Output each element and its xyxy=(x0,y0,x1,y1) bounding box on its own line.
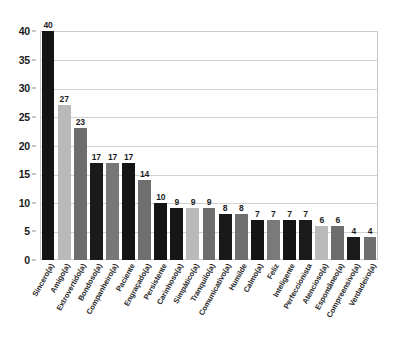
bar-value-label: 10 xyxy=(156,192,165,202)
bar-value-label: 7 xyxy=(255,209,260,219)
bar: 9 xyxy=(203,208,216,260)
bar: 8 xyxy=(235,214,248,260)
y-tick-label: 0 xyxy=(24,254,30,266)
y-tick-label: 20 xyxy=(19,140,30,152)
bar-value-label: 9 xyxy=(207,197,212,207)
y-tick-mark xyxy=(32,260,36,261)
bar: 6 xyxy=(315,226,328,260)
bar-value-label: 17 xyxy=(124,152,133,162)
y-tick-mark xyxy=(32,59,36,60)
y-tick-mark xyxy=(32,231,36,232)
y-tick-mark xyxy=(32,174,36,175)
bar: 10 xyxy=(154,203,167,260)
bar: 9 xyxy=(186,208,199,260)
bar-value-label: 7 xyxy=(287,209,292,219)
y-tick-label: 15 xyxy=(19,168,30,180)
bar-value-label: 17 xyxy=(108,152,117,162)
bar: 14 xyxy=(138,180,151,260)
bar-value-label: 14 xyxy=(140,169,149,179)
y-tick-mark xyxy=(32,88,36,89)
bar-value-label: 27 xyxy=(60,94,69,104)
y-tick-mark xyxy=(32,202,36,203)
bar: 23 xyxy=(74,128,87,260)
y-tick-label: 10 xyxy=(19,197,30,209)
bar: 7 xyxy=(283,220,296,260)
bar: 40 xyxy=(42,31,55,260)
y-tick-label: 30 xyxy=(19,82,30,94)
bar: 17 xyxy=(106,163,119,260)
y-tick-label: 35 xyxy=(19,54,30,66)
bars-layer: 40272317171714109998877776644 xyxy=(40,31,378,260)
y-tick-mark xyxy=(32,145,36,146)
bar-value-label: 40 xyxy=(44,20,53,30)
bar: 9 xyxy=(170,208,183,260)
bar-chart: 0510152025303540 40272317171714109998877… xyxy=(0,0,402,346)
bar-value-label: 7 xyxy=(303,209,308,219)
bar: 8 xyxy=(219,214,232,260)
x-axis: Sincero(a)Amigo(a)Extrovertido(a)Bondoso… xyxy=(40,262,378,346)
bar: 17 xyxy=(122,163,135,260)
bar: 7 xyxy=(267,220,280,260)
y-tick-mark xyxy=(32,116,36,117)
bar-value-label: 9 xyxy=(175,197,180,207)
bar: 17 xyxy=(90,163,103,260)
bar-value-label: 4 xyxy=(352,226,357,236)
bar-value-label: 17 xyxy=(92,152,101,162)
bar: 4 xyxy=(364,237,377,260)
y-tick-label: 25 xyxy=(19,111,30,123)
y-tick-label: 40 xyxy=(19,25,30,37)
bar: 7 xyxy=(299,220,312,260)
bar-value-label: 8 xyxy=(223,203,228,213)
bar: 6 xyxy=(331,226,344,260)
bar: 27 xyxy=(58,105,71,260)
bar: 7 xyxy=(251,220,264,260)
bar-value-label: 4 xyxy=(368,226,373,236)
y-tick-label: 5 xyxy=(24,225,30,237)
y-tick-mark xyxy=(32,31,36,32)
bar-value-label: 8 xyxy=(239,203,244,213)
y-axis: 0510152025303540 xyxy=(0,31,36,260)
bar-value-label: 9 xyxy=(191,197,196,207)
bar-value-label: 23 xyxy=(76,117,85,127)
bar-value-label: 7 xyxy=(271,209,276,219)
bar: 4 xyxy=(347,237,360,260)
bar-value-label: 6 xyxy=(319,215,324,225)
bar-value-label: 6 xyxy=(335,215,340,225)
